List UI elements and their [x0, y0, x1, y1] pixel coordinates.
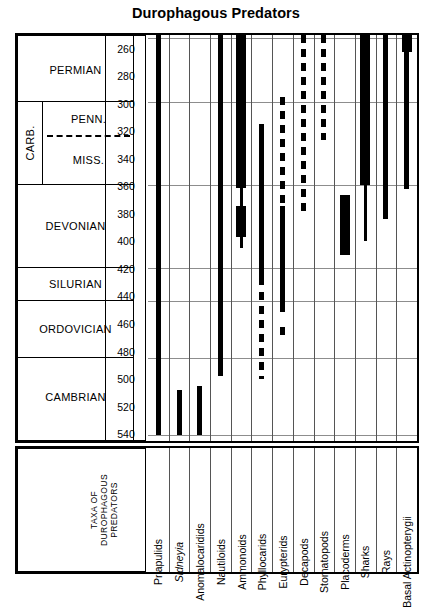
column-separator	[334, 35, 335, 441]
period-cambrian: CAMBRIAN	[17, 358, 134, 435]
range-bar-segment	[280, 153, 285, 161]
range-bar-segment	[259, 362, 264, 370]
taxon-label-phyllocarids: Phyllocarids	[251, 448, 272, 572]
taxon-label-rays: Rays	[376, 448, 397, 572]
axis-tick-380: 380	[108, 208, 144, 220]
range-bar-segment	[321, 91, 326, 99]
axis-tick-500: 500	[108, 373, 144, 385]
range-bar-segment	[301, 147, 306, 155]
range-bar-segment	[280, 206, 285, 312]
taxon-label-text: Sharks	[360, 546, 372, 579]
taxa-axis-title: TAXA OFDUROPHAGOUSPREDATORS	[17, 448, 146, 572]
range-bar-segment	[301, 161, 306, 169]
gridline-541	[148, 435, 417, 436]
range-bar-segment	[321, 35, 326, 43]
range-bar-segment	[218, 35, 223, 376]
period-label-text: CARB.	[24, 126, 36, 161]
range-bar-segment	[301, 133, 306, 141]
plot-area	[148, 35, 417, 441]
column-separator	[231, 35, 232, 441]
taxon-label-nautiloids: Nautiloids	[210, 448, 231, 572]
taxon-label-ammonoids: Ammonoids	[231, 448, 252, 572]
column-separator	[272, 35, 273, 441]
range-bar-segment	[280, 195, 285, 203]
range-bar-segment	[259, 376, 264, 379]
range-bar-segment	[340, 195, 350, 256]
taxon-label-text: Priapulids	[152, 539, 164, 585]
range-bar-segment	[280, 111, 285, 119]
taxon-label-anomalocaridids: Anomalocaridids	[189, 448, 210, 572]
taxa-label-row: PriapulidsSidneyiaAnomalocarididsNautilo…	[148, 448, 417, 572]
axis-tick-440: 440	[108, 290, 144, 302]
taxon-label-sidneyia: Sidneyia	[169, 448, 190, 572]
range-bar-segment	[301, 203, 306, 211]
axis-tick-420: 420	[108, 263, 144, 275]
axis-tick-400: 400	[108, 235, 144, 247]
range-bar-segment	[240, 237, 243, 248]
taxon-label-text: Eurypterids	[277, 535, 289, 588]
range-bar-segment	[197, 386, 202, 436]
range-bar-segment	[259, 320, 264, 328]
range-bar-segment	[280, 181, 285, 189]
taxon-label-text: Decapods	[298, 538, 310, 585]
axis-tick-460: 460	[108, 318, 144, 330]
taxon-label-sharks: Sharks	[355, 448, 376, 572]
range-bar-segment	[280, 97, 285, 105]
column-separator	[355, 35, 356, 441]
taxon-label-text: Sidneyia	[174, 542, 186, 582]
taxa-axis-title-line: TAXA OF	[89, 474, 99, 546]
axis-tick-280: 280	[108, 70, 144, 82]
taxon-label-decapods: Decapods	[293, 448, 314, 572]
column-separator	[189, 35, 190, 441]
range-bar-segment	[240, 188, 243, 206]
taxon-label-text: Stomatopods	[318, 531, 330, 593]
range-bar-segment	[280, 167, 285, 175]
range-bar-segment	[301, 77, 306, 85]
range-bar-segment	[259, 306, 264, 314]
range-bar-segment	[301, 91, 306, 99]
axis-tick-540: 540	[108, 428, 144, 440]
column-separator	[169, 35, 170, 441]
range-bar-segment	[301, 119, 306, 127]
range-bar-segment	[364, 185, 367, 241]
period-carboniferous-label: CARB.	[17, 102, 43, 184]
taxon-label-basal-actinopterygii: Basal Actinopterygii	[396, 448, 417, 572]
taxon-label-text: Phyllocarids	[256, 534, 268, 591]
taxon-label-text: Ammonoids	[236, 534, 248, 589]
range-bar-segment	[301, 189, 306, 197]
range-bar-segment	[236, 206, 246, 238]
range-bar-segment	[280, 327, 285, 335]
range-bar-segment	[280, 125, 285, 133]
range-bar-segment	[259, 348, 264, 356]
range-bar-segment	[360, 35, 370, 185]
range-bar-segment	[321, 63, 326, 71]
period-devonian: DEVONIAN	[17, 185, 134, 268]
axis-tick-520: 520	[108, 401, 144, 413]
range-bar-segment	[321, 133, 326, 140]
taxon-label-text: Basal Actinopterygii	[401, 516, 413, 608]
taxa-axis-title-line: DUROPHAGOUS	[99, 474, 109, 546]
gridline-485	[148, 358, 417, 359]
column-separator	[251, 35, 252, 441]
range-bar-segment	[156, 35, 161, 435]
range-bar-segment	[321, 105, 326, 113]
range-bar-segment	[404, 52, 409, 190]
axis-tick-320: 320	[108, 125, 144, 137]
range-bar-segment	[301, 49, 306, 57]
axis-tick-360: 360	[108, 180, 144, 192]
column-separator	[376, 35, 377, 441]
range-bar-segment	[301, 35, 306, 43]
column-separator	[314, 35, 315, 441]
range-bar-segment	[301, 63, 306, 71]
range-bar-segment	[259, 292, 264, 300]
taxon-label-text: Rays	[380, 550, 392, 574]
range-bar-segment	[236, 35, 246, 188]
range-bar-segment	[301, 175, 306, 183]
taxon-label-priapulids: Priapulids	[148, 448, 169, 572]
taxon-label-text: Anomalocaridids	[194, 523, 206, 601]
range-bar-segment	[259, 124, 264, 285]
taxon-label-placoderms: Placoderms	[334, 448, 355, 572]
taxon-label-text: Nautiloids	[215, 539, 227, 585]
axis-tick-340: 340	[108, 153, 144, 165]
